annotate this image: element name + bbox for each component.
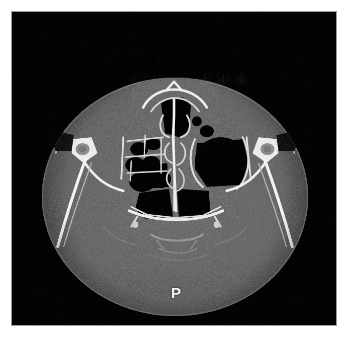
ct-scan-image	[12, 12, 336, 325]
screenshot-page: P	[0, 0, 352, 339]
ct-image-viewport	[11, 11, 337, 326]
